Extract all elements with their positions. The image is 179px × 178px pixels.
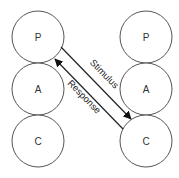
right-parent-label: P — [143, 32, 150, 43]
left-adult-label: A — [35, 84, 42, 95]
left-child-label: C — [34, 136, 41, 147]
right-adult-state: A — [120, 63, 172, 115]
stimulus-label: Stimulus — [88, 57, 121, 91]
right-ego-states: P A C — [120, 11, 172, 167]
left-ego-states: P A C — [12, 11, 64, 167]
right-child-state: C — [120, 115, 172, 167]
left-parent-state: P — [12, 11, 64, 63]
left-adult-state: A — [12, 63, 64, 115]
response-edge: Response — [55, 59, 123, 129]
left-parent-label: P — [35, 32, 42, 43]
response-label: Response — [66, 77, 104, 115]
right-child-label: C — [142, 136, 149, 147]
left-child-state: C — [12, 115, 64, 167]
ta-diagram: P A C P A C Stimulus Response — [0, 0, 179, 178]
right-adult-label: A — [143, 84, 150, 95]
right-parent-state: P — [120, 11, 172, 63]
